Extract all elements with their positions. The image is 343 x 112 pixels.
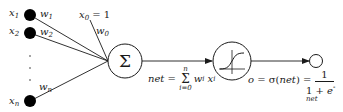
ellipsis-dot (29, 55, 31, 57)
weight-label-wn: wn (39, 82, 52, 94)
net-equation: net = n Σ i=0 wi xi (148, 66, 215, 92)
bias-label: x0 = 1 (79, 10, 110, 22)
weight-label-w1: w1 (40, 9, 53, 21)
ellipsis-dot (29, 67, 31, 69)
bias-weight-label: w0 (96, 26, 109, 38)
weight-label-w2: w2 (40, 27, 53, 39)
output-equation: o = σ( net ) = (248, 75, 315, 85)
sum-symbol: Σ (119, 51, 131, 71)
input-label-x2: x2 (9, 26, 19, 38)
output-node (310, 55, 323, 68)
input-node-xn (24, 95, 36, 107)
perceptron-diagram: Σ x1 x2 xn w1 w2 wn x0 = 1 w0 net = n Σ … (0, 0, 343, 112)
input-node-x1 (24, 9, 36, 21)
ellipsis-dot (29, 79, 31, 81)
input-label-x1: x1 (9, 8, 19, 20)
input-node-x2 (24, 27, 36, 39)
output-fraction: 1 1 + e-net (306, 69, 343, 108)
input-label-xn: xn (9, 96, 19, 108)
